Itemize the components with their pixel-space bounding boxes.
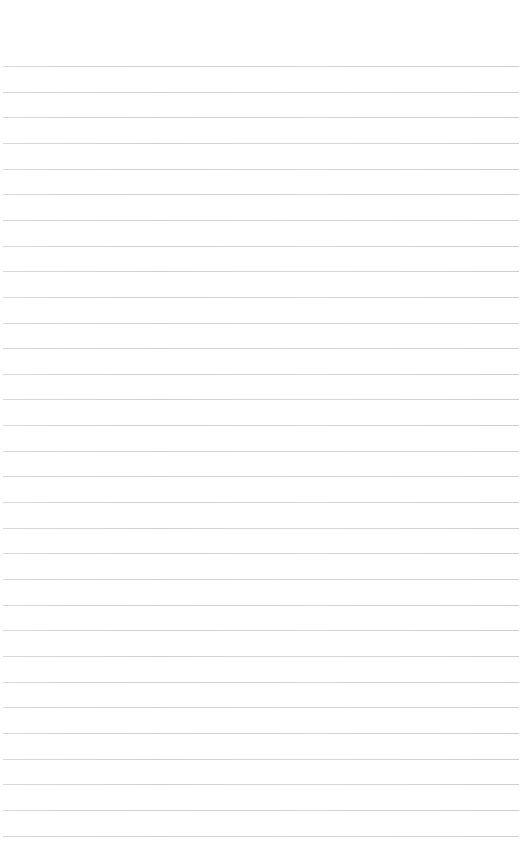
ruled-line <box>3 399 519 400</box>
ruled-line <box>3 92 519 93</box>
ruled-line <box>3 476 519 477</box>
ruled-line <box>3 374 519 375</box>
ruled-line <box>3 117 519 118</box>
ruled-line <box>3 451 519 452</box>
ruled-line <box>3 836 519 837</box>
ruled-line <box>3 733 519 734</box>
ruled-line <box>3 656 519 657</box>
ruled-line <box>3 169 519 170</box>
ruled-line <box>3 271 519 272</box>
ruled-line <box>3 297 519 298</box>
ruled-line <box>3 348 519 349</box>
ruled-line <box>3 579 519 580</box>
ruled-line <box>3 220 519 221</box>
ruled-line <box>3 605 519 606</box>
ruled-line <box>3 784 519 785</box>
ruled-paper-sheet <box>0 0 521 860</box>
ruled-line <box>3 707 519 708</box>
ruled-line <box>3 528 519 529</box>
ruled-line <box>3 246 519 247</box>
ruled-line <box>3 759 519 760</box>
ruled-line <box>3 553 519 554</box>
ruled-line <box>3 810 519 811</box>
ruled-line <box>3 323 519 324</box>
ruled-line <box>3 682 519 683</box>
ruled-line <box>3 630 519 631</box>
ruled-line <box>3 66 519 67</box>
ruled-line <box>3 502 519 503</box>
ruled-line <box>3 425 519 426</box>
ruled-line <box>3 143 519 144</box>
ruled-line <box>3 194 519 195</box>
